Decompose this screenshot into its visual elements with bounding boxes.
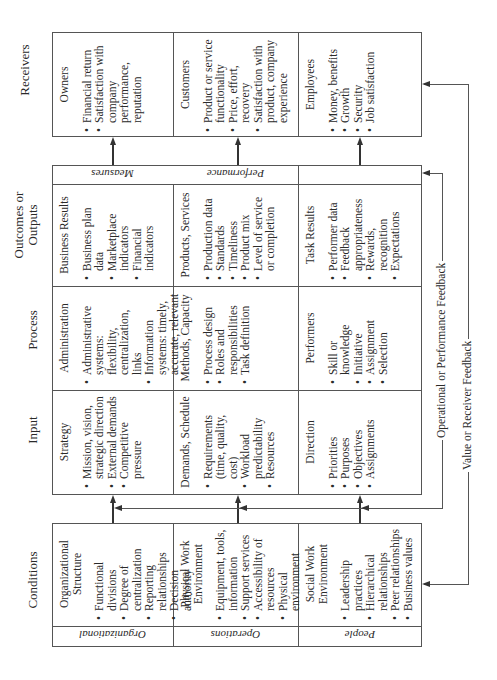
receiver-employees: Employees Money, benefitsGrowthSecurityJ… [301,33,419,136]
arrow-up-icon [235,137,241,145]
outcome-products-services: Products, Services Production dataStanda… [176,186,296,284]
input-strategy: Strategy Mission, vision, strategic dire… [55,392,173,492]
input-direction: Direction PrioritiesPurposesObjectivesAs… [301,392,419,492]
arrow-left-icon [422,170,430,176]
arrow-left-icon [422,581,430,587]
process-input-divider [52,390,422,391]
arrow-left-icon [422,81,430,87]
column-heading-conditions: Conditions [26,530,40,630]
people-label: People [298,629,422,641]
performance-label: Performance [173,168,298,180]
arrow-left-icon [361,505,369,511]
condition-social-work-environment: Social Work Environment Leadership pract… [301,524,419,624]
outcome-task-results: Task Results Performer dataFeedback appr… [301,186,419,284]
performance-feedback-line-bottom [118,508,443,509]
value-feedback-line-top [424,84,468,85]
process-performers: Performers Skill or knowledgeInitiativeA… [301,288,419,388]
column-heading-receivers: Receivers [18,20,32,120]
measures-label: Measures [52,168,173,180]
outcomes-process-divider [52,286,422,287]
arrow-up-icon [357,137,363,145]
conditions-label-divider [52,626,422,627]
condition-organizational-structure: Organizational Structure Functional divi… [55,524,173,624]
arrow-left-icon [114,505,122,511]
divider [173,32,174,137]
arrow-up-icon [235,495,241,503]
organizational-label: Organizational [52,629,173,641]
column-heading-process: Process [26,290,40,370]
receiver-customers: Customers Product or service functionali… [176,33,296,136]
value-feedback-label: Value or Receiver Feedback [461,339,473,472]
arrow-left-icon [239,505,247,511]
column-heading-input: Input [26,390,40,470]
condition-physical-work-environment: Physical Work Environment Equipment, too… [176,524,296,624]
measures-strip-divider [52,184,422,185]
outcome-business-results: Business Results Business plan dataMarke… [55,186,173,284]
receiver-owners: Owners Financial returnSatisfaction with… [55,33,173,136]
input-demands-schedule: Demands, Schedule Requirements (time, qu… [176,392,296,492]
operational-feedback-label: Operational or Performance Feedback [435,261,447,440]
value-feedback-line-bottom [424,584,468,585]
divider [298,165,299,495]
value-feedback-line [468,84,469,585]
arrow-up-icon [357,495,363,503]
process-administration: Administration Administrative systems: f… [55,288,173,388]
column-heading-outcomes: Outcomes or Outputs [12,170,40,280]
operations-label: Operations [173,629,298,641]
divider [298,32,299,137]
arrow-up-icon [110,495,116,503]
process-methods-capacity: Methods, Capacity Process designRoles an… [176,288,296,388]
arrow-up-icon [110,137,116,145]
